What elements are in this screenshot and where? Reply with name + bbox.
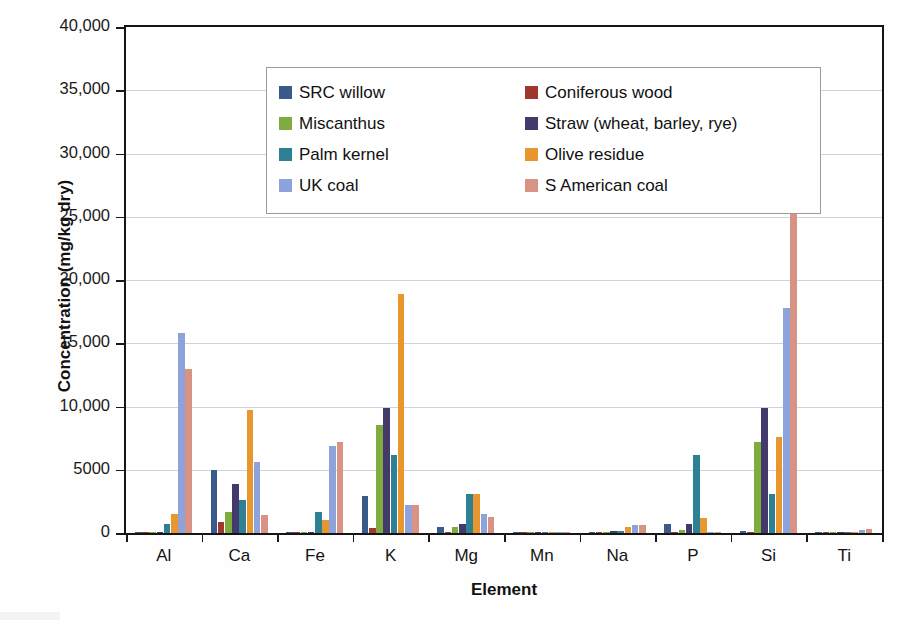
bar xyxy=(556,532,563,534)
x-tick-label-k: K xyxy=(351,546,431,566)
y-tick-mark xyxy=(116,217,124,219)
bar xyxy=(301,532,308,534)
x-tick-mark xyxy=(353,533,355,542)
legend-label: Olive residue xyxy=(545,145,644,165)
y-tick-label: 40,000 xyxy=(0,16,110,35)
y-tick-label: 35,000 xyxy=(0,79,110,98)
bar xyxy=(405,505,412,533)
bar xyxy=(617,531,624,533)
bar xyxy=(632,525,639,533)
bar xyxy=(286,532,293,534)
chart-legend: SRC willowMiscanthusPalm kernelUK coal C… xyxy=(266,67,821,214)
bar xyxy=(247,410,254,533)
legend-label: UK coal xyxy=(299,176,359,196)
bar xyxy=(823,532,830,534)
bar xyxy=(603,532,610,534)
y-tick-label: 0 xyxy=(0,522,110,541)
bar xyxy=(589,532,596,534)
bar xyxy=(293,532,300,534)
bar xyxy=(445,532,452,534)
bar xyxy=(329,446,336,533)
bar xyxy=(671,532,678,534)
bar xyxy=(563,532,570,534)
legend-label: Miscanthus xyxy=(299,114,385,134)
scan-artifact-left xyxy=(0,612,60,620)
bar xyxy=(239,500,246,533)
x-tick-label-mn: Mn xyxy=(502,546,582,566)
bar xyxy=(142,532,149,534)
y-tick-mark xyxy=(116,280,124,282)
bar xyxy=(707,532,714,534)
legend-label: Palm kernel xyxy=(299,145,389,165)
bar xyxy=(308,532,315,534)
bar xyxy=(851,532,858,534)
bar xyxy=(437,527,444,533)
bar xyxy=(830,532,837,534)
bar xyxy=(815,532,822,534)
x-tick-label-ca: Ca xyxy=(199,546,279,566)
bar xyxy=(693,455,700,533)
bar xyxy=(315,512,322,534)
y-tick-mark xyxy=(116,27,124,29)
bar xyxy=(520,532,527,534)
x-tick-mark xyxy=(806,533,808,542)
bar xyxy=(452,527,459,533)
y-tick-mark xyxy=(116,533,124,535)
bar-chart-figure: Concentration (mg/kg dry) 0500010,00015,… xyxy=(0,0,897,632)
legend-label: SRC willow xyxy=(299,83,385,103)
bar xyxy=(700,518,707,533)
bar xyxy=(322,520,329,533)
bar xyxy=(549,532,556,534)
x-tick-mark xyxy=(126,533,128,542)
bar xyxy=(679,530,686,533)
legend-label: Straw (wheat, barley, rye) xyxy=(545,114,737,134)
y-tick-label: 25,000 xyxy=(0,206,110,225)
x-tick-label-si: Si xyxy=(729,546,809,566)
legend-swatch-icon xyxy=(279,117,292,130)
x-tick-label-al: Al xyxy=(124,546,204,566)
bar xyxy=(362,496,369,533)
legend-swatch-icon xyxy=(279,148,292,161)
bar xyxy=(837,532,844,534)
legend-swatch-icon xyxy=(525,148,538,161)
bar xyxy=(513,532,520,534)
bar xyxy=(625,527,632,533)
y-tick-mark xyxy=(116,407,124,409)
bar xyxy=(391,455,398,533)
bar xyxy=(164,524,171,533)
bar xyxy=(135,532,142,534)
bar xyxy=(185,369,192,533)
x-tick-mark xyxy=(428,533,430,542)
bar xyxy=(398,294,405,533)
x-tick-mark xyxy=(655,533,657,542)
bar xyxy=(747,532,754,534)
legend-item: Palm kernel xyxy=(279,139,389,170)
bar xyxy=(412,505,419,533)
bar xyxy=(535,532,542,534)
bar xyxy=(844,532,851,534)
bar-group-al xyxy=(126,27,202,533)
y-tick-mark xyxy=(116,343,124,345)
x-tick-label-na: Na xyxy=(577,546,657,566)
plot-area: SRC willowMiscanthusPalm kernelUK coal C… xyxy=(124,25,884,535)
legend-column-left: SRC willowMiscanthusPalm kernelUK coal xyxy=(279,77,389,201)
bar xyxy=(466,494,473,533)
x-tick-mark xyxy=(277,533,279,542)
legend-swatch-icon xyxy=(525,117,538,130)
bar xyxy=(211,470,218,533)
y-tick-mark xyxy=(116,154,124,156)
bar xyxy=(740,531,747,533)
bar xyxy=(459,524,466,533)
bar xyxy=(178,333,185,533)
x-tick-label-p: P xyxy=(653,546,733,566)
bar xyxy=(171,514,178,533)
y-tick-mark xyxy=(116,470,124,472)
bar xyxy=(157,532,164,534)
x-tick-label-mg: Mg xyxy=(426,546,506,566)
y-tick-label: 15,000 xyxy=(0,332,110,351)
y-tick-label: 10,000 xyxy=(0,396,110,415)
bar xyxy=(232,484,239,533)
x-tick-label-ti: Ti xyxy=(804,546,884,566)
x-tick-mark xyxy=(202,533,204,542)
bar xyxy=(473,494,480,533)
